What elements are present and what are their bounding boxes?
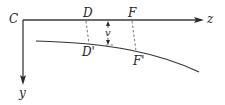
deflection-up-arrow-icon: [106, 21, 110, 26]
deflection-diagram: C z y D D' F F' v: [0, 0, 225, 105]
y-axis: [20, 20, 26, 85]
deflection-label-v: v: [105, 27, 111, 38]
point-d-prime-label: D': [81, 45, 95, 59]
z-axis: [23, 17, 204, 23]
point-f-prime-label: F': [132, 54, 145, 68]
deflection-down-arrow-icon: [106, 40, 110, 45]
d-projection-line: [86, 21, 89, 44]
z-axis-label: z: [206, 12, 214, 26]
point-f-label: F: [127, 6, 137, 20]
f-projection-line: [132, 21, 136, 51]
elastic-curve: [36, 41, 199, 72]
point-d-label: D: [82, 6, 93, 20]
origin-label-c: C: [9, 12, 18, 26]
y-axis-label: y: [18, 86, 26, 100]
